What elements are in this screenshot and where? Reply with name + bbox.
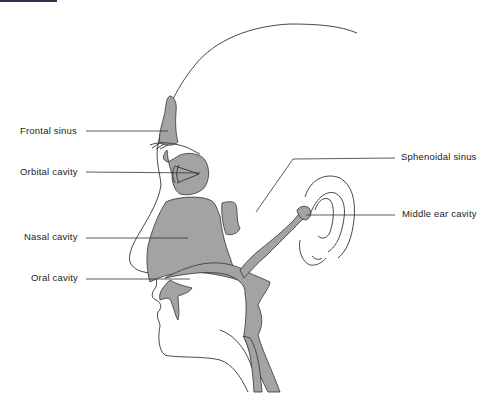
label-sphenoidal-sinus: Sphenoidal sinus (401, 151, 477, 162)
eustachian-tube-shape (240, 212, 306, 278)
label-frontal-sinus: Frontal sinus (20, 125, 77, 136)
label-oral-cavity: Oral cavity (31, 272, 78, 283)
oral-cavity-pharynx-shape (165, 263, 280, 392)
ear-outline (299, 176, 354, 265)
label-middle-ear-cavity: Middle ear cavity (402, 208, 477, 219)
sphenoidal-sinus-shape (222, 202, 240, 235)
label-nasal-cavity: Nasal cavity (24, 231, 78, 242)
frontal-sinus-shape (159, 96, 178, 145)
leader-sphenoidal-sinus (256, 158, 395, 212)
label-orbital-cavity: Orbital cavity (20, 166, 78, 177)
tongue-tip-shape (160, 280, 192, 320)
